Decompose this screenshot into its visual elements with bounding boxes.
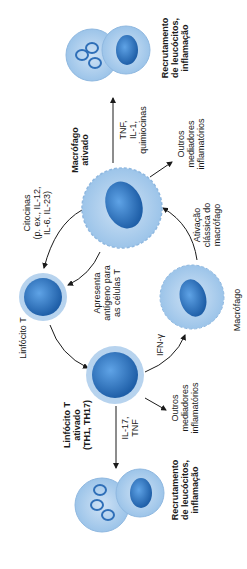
text-line: Apresenta: [92, 261, 102, 325]
text-line: TNF,: [118, 98, 128, 162]
text-line: (TH1, TH17): [82, 390, 92, 460]
text-line: mediadores: [180, 376, 190, 440]
text-line: IL-17,: [120, 406, 130, 450]
text-line: Outros: [170, 376, 180, 440]
text-line: Outros: [176, 112, 186, 176]
text-line: Linfócito T: [18, 308, 28, 368]
text-line: inflamação: [180, 8, 190, 88]
text-line: Recrutamento: [170, 450, 180, 530]
text-line: clássica do: [202, 190, 212, 260]
text-line: inflamatórios: [196, 112, 206, 176]
monocyte-bottom: [116, 469, 164, 517]
text-line: Recrutamento: [160, 8, 170, 88]
diagram-arrows: [0, 0, 247, 569]
text-line: antígeno para: [102, 261, 112, 325]
text-line: Macrófago: [232, 280, 242, 340]
label-tnf-il1: TNF, IL-1, quimiocinas: [118, 98, 148, 162]
text-line: IL-1,: [128, 98, 138, 162]
label-citocinas: Citocinas (p. ex., IL-12, IL-6, IL-23): [22, 178, 52, 248]
text-line: Macrófago: [70, 120, 80, 180]
label-recrutamento-bottom: Recrutamento de leucócitos, inflamação: [170, 450, 200, 530]
label-ativacao-classica: Ativação clássica do macrófago: [192, 190, 222, 260]
label-linfocito-t: Linfócito T: [18, 308, 28, 368]
text-line: inflamatórios: [190, 376, 200, 440]
text-line: IL-6, IL-23): [42, 178, 52, 248]
text-line: mediadores: [186, 112, 196, 176]
label-outros-top: Outros mediadores inflamatórios: [176, 112, 206, 176]
arrow-ifn: [145, 335, 185, 372]
text-line: de leucócitos,: [180, 450, 190, 530]
label-recrutamento-top: Recrutamento de leucócitos, inflamação: [160, 8, 190, 88]
monocyte-top: [102, 26, 150, 74]
label-ifn: IFN-γ: [155, 330, 165, 360]
activated-t-lymphocyte-cell: [86, 346, 144, 404]
label-linfocito-t-ativado: Linfócito T ativado (TH1, TH17): [62, 390, 92, 460]
macrophage-cell: [160, 265, 224, 329]
text-line: Citocinas: [22, 178, 32, 248]
text-line: ativado: [72, 390, 82, 460]
label-macrofago: Macrófago: [232, 280, 242, 340]
text-line: macrófago: [212, 190, 222, 260]
label-apresenta: Apresenta antígeno para as células T: [92, 261, 122, 325]
text-line: ativado: [80, 120, 90, 180]
arrow-outros-bottom: [145, 398, 166, 410]
text-line: IFN-γ: [155, 330, 165, 360]
text-line: quimiocinas: [138, 98, 148, 162]
text-line: de leucócitos,: [170, 8, 180, 88]
text-line: Linfócito T: [62, 390, 72, 460]
arrow-ativacao-t: [50, 325, 88, 368]
text-line: Ativação: [192, 190, 202, 260]
text-line: inflamação: [190, 450, 200, 530]
text-line: as células T: [112, 261, 122, 325]
label-macrofago-ativado: Macrófago ativado: [70, 120, 90, 180]
label-il17: IL-17, TNF: [120, 406, 140, 450]
text-line: (p. ex., IL-12,: [32, 178, 42, 248]
activated-macrophage-cell: [82, 168, 162, 248]
label-outros-bottom: Outros mediadores inflamatórios: [170, 376, 200, 440]
text-line: TNF: [130, 406, 140, 450]
arrow-outros-top: [150, 162, 172, 177]
